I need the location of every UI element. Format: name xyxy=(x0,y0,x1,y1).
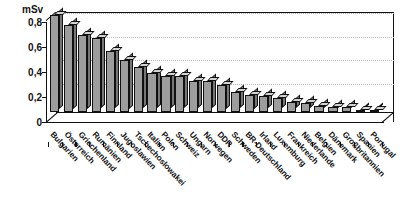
bar-side-face xyxy=(59,7,63,108)
bar-front-face xyxy=(287,102,296,112)
bar-side-face xyxy=(101,31,105,108)
y-axis-tick-label: 0,8 xyxy=(28,17,42,28)
bar xyxy=(120,60,129,113)
bar xyxy=(175,76,184,112)
bar-front-face xyxy=(106,51,115,112)
bar-front-face xyxy=(161,76,170,112)
y-axis-tick-mark xyxy=(42,122,47,123)
bar-front-face xyxy=(78,35,87,113)
bar xyxy=(64,25,73,113)
bar xyxy=(203,81,212,112)
bar-side-face xyxy=(87,27,91,108)
bar xyxy=(231,92,240,112)
floor-right-edge xyxy=(382,112,394,123)
bar-front-face xyxy=(273,98,282,112)
bar xyxy=(217,85,226,113)
bar xyxy=(50,15,59,113)
bar-front-face xyxy=(64,25,73,113)
y-axis-tick-label: 0,2 xyxy=(28,92,42,103)
bar-side-face xyxy=(129,52,133,108)
bar xyxy=(259,96,268,112)
bar-side-face xyxy=(73,17,77,108)
bar-front-face xyxy=(259,96,268,112)
bar-front-face xyxy=(147,73,156,112)
bar xyxy=(161,76,170,112)
bar xyxy=(245,95,254,113)
floor-back-edge xyxy=(56,112,394,113)
bar-chart: mSv 00,20,40,60,8 BulgarienÖsterreichGri… xyxy=(0,0,408,211)
bar xyxy=(134,67,143,112)
y-axis-tick-label: 0,4 xyxy=(28,67,42,78)
bar xyxy=(78,35,87,113)
y-axis-tick-mark xyxy=(42,47,47,48)
x-axis-line xyxy=(46,122,384,123)
bar-front-face xyxy=(120,60,129,113)
bar xyxy=(106,51,115,112)
bar xyxy=(273,98,282,112)
bar-side-face xyxy=(115,43,119,108)
plot-area xyxy=(46,12,394,131)
bar-front-face xyxy=(92,38,101,112)
bar-front-face xyxy=(189,81,198,112)
y-axis-tick-labels: 00,20,40,60,8 xyxy=(0,12,42,131)
x-axis-category-labels: BulgarienÖsterreichGriechenlandRumänienF… xyxy=(0,128,408,211)
bar-front-face xyxy=(245,95,254,113)
y-axis-tick-mark xyxy=(42,72,47,73)
bar-front-face xyxy=(203,81,212,112)
bar-front-face xyxy=(231,92,240,112)
bar xyxy=(287,102,296,112)
bar-front-face xyxy=(50,15,59,113)
bar-front-face xyxy=(134,67,143,112)
bar xyxy=(189,81,198,112)
y-axis-tick-mark xyxy=(42,22,47,23)
bar-front-face xyxy=(217,85,226,113)
bar xyxy=(147,73,156,112)
y-axis-tick-label: 0,6 xyxy=(28,42,42,53)
y-axis-tick-mark xyxy=(42,97,47,98)
bar-front-face xyxy=(175,76,184,112)
bar xyxy=(92,38,101,112)
